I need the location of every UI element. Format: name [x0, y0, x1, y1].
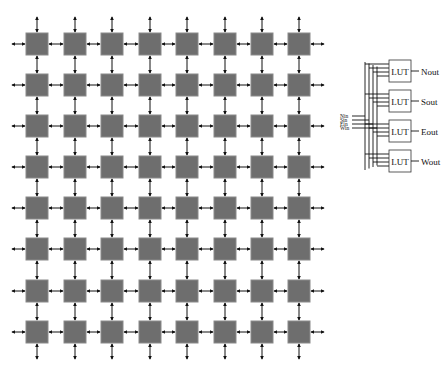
- grid-cell: [288, 238, 310, 260]
- grid-cell: [64, 115, 86, 137]
- output-label-nout: Nout: [421, 67, 439, 77]
- grid-cell: [64, 33, 86, 55]
- grid-cell: [101, 115, 123, 137]
- output-label-sout: Sout: [421, 97, 438, 107]
- grid-cell: [101, 156, 123, 178]
- lut-label: LUT: [391, 97, 409, 107]
- lut-detail-panel: NinSinEinWinLUTNoutLUTSoutLUTEoutLUTWout: [340, 60, 441, 172]
- grid-links: [12, 17, 324, 359]
- grid-cell: [139, 156, 161, 178]
- grid-cell: [101, 238, 123, 260]
- grid-cell: [288, 321, 310, 343]
- output-label-wout: Wout: [421, 157, 441, 167]
- grid-cell: [64, 156, 86, 178]
- grid-cell: [26, 238, 48, 260]
- grid-cell: [139, 74, 161, 96]
- grid-cell: [101, 321, 123, 343]
- grid-cell: [176, 74, 198, 96]
- grid-cell: [214, 156, 236, 178]
- grid-cell: [214, 321, 236, 343]
- grid-cell: [64, 197, 86, 219]
- output-label-eout: Eout: [421, 127, 438, 137]
- grid-cell: [214, 280, 236, 302]
- input-label-win: Win: [340, 125, 349, 131]
- grid-cell: [214, 197, 236, 219]
- grid-cell: [214, 74, 236, 96]
- grid-cell: [176, 115, 198, 137]
- grid-cell: [176, 280, 198, 302]
- grid-cell: [251, 321, 273, 343]
- grid-cell: [176, 238, 198, 260]
- grid-cells: [26, 33, 310, 343]
- grid-cell: [288, 74, 310, 96]
- grid-cell: [251, 74, 273, 96]
- grid-cell: [101, 74, 123, 96]
- grid-cell: [176, 321, 198, 343]
- grid-cell: [288, 156, 310, 178]
- grid-cell: [64, 238, 86, 260]
- grid-cell: [26, 74, 48, 96]
- grid-cell: [288, 115, 310, 137]
- lut-label: LUT: [391, 157, 409, 167]
- grid-cell: [251, 156, 273, 178]
- grid-cell: [26, 33, 48, 55]
- lut-label: LUT: [391, 127, 409, 137]
- grid-cell: [139, 238, 161, 260]
- grid-cell: [64, 280, 86, 302]
- grid-cell: [214, 33, 236, 55]
- grid-cell: [26, 321, 48, 343]
- grid-cell: [139, 33, 161, 55]
- grid-cell: [101, 197, 123, 219]
- lut-label: LUT: [391, 67, 409, 77]
- mesh-diagram: NinSinEinWinLUTNoutLUTSoutLUTEoutLUTWout: [0, 0, 447, 374]
- grid-cell: [288, 280, 310, 302]
- grid-cell: [139, 321, 161, 343]
- grid-cell: [251, 238, 273, 260]
- grid-cell: [64, 74, 86, 96]
- grid-cell: [139, 197, 161, 219]
- grid-cell: [214, 238, 236, 260]
- grid-cell: [251, 280, 273, 302]
- grid-cell: [214, 115, 236, 137]
- grid-cell: [26, 115, 48, 137]
- grid-cell: [251, 115, 273, 137]
- grid-cell: [251, 33, 273, 55]
- grid-cell: [101, 33, 123, 55]
- grid-cell: [288, 33, 310, 55]
- grid-cell: [176, 33, 198, 55]
- grid-cell: [176, 197, 198, 219]
- grid-cell: [26, 197, 48, 219]
- grid-cell: [176, 156, 198, 178]
- grid-cell: [101, 280, 123, 302]
- grid-cell: [288, 197, 310, 219]
- grid-cell: [251, 197, 273, 219]
- grid-cell: [139, 280, 161, 302]
- grid-cell: [139, 115, 161, 137]
- grid-cell: [64, 321, 86, 343]
- grid-cell: [26, 280, 48, 302]
- grid-cell: [26, 156, 48, 178]
